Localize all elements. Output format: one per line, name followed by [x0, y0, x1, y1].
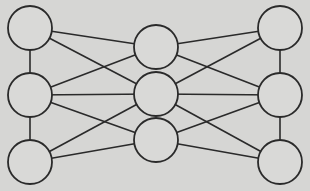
node-right-middle [258, 73, 302, 117]
node-right-top [258, 6, 302, 50]
node-left-top [8, 6, 52, 50]
node-center-bottom [134, 118, 178, 162]
nodes-layer [8, 6, 302, 184]
node-left-bottom [8, 140, 52, 184]
graph-svg [0, 0, 310, 191]
node-left-middle [8, 73, 52, 117]
network-diagram [0, 0, 310, 191]
node-center-middle [134, 72, 178, 116]
node-right-bottom [258, 140, 302, 184]
node-center-top [134, 25, 178, 69]
